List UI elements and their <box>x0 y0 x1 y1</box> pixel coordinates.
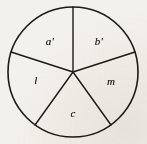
sector-label-a-prime: a' <box>46 36 54 47</box>
pie-sector-drawing <box>0 0 147 144</box>
pie-sector-figure: a' b' l m c <box>0 0 147 144</box>
sector-label-l: l <box>34 75 37 86</box>
sector-label-b-prime: b' <box>95 36 103 47</box>
sector-label-m: m <box>107 76 115 87</box>
sector-label-c: c <box>70 108 75 119</box>
